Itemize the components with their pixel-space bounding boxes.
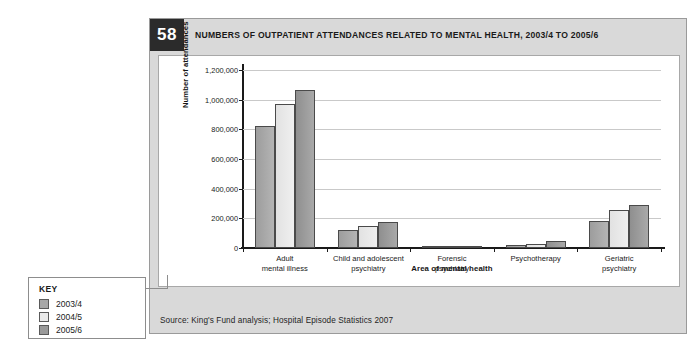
key-legend-box: KEY 2003/4 2004/5 2005/6 [28,277,146,339]
y-tick-label: 600,000 [211,155,238,164]
y-tick-label: 1,200,000 [205,66,238,75]
x-tick-mark [410,248,411,252]
figure-title: NUMBERS OF OUTPATIENT ATTENDANCES RELATE… [184,19,686,51]
y-tick-label: 0 [234,244,238,253]
y-tick-label: 1,000,000 [205,95,238,104]
source-note: Source: King's Fund analysis; Hospital E… [160,316,393,325]
key-connector-line-vertical [167,275,168,289]
plot-card: Number of attendances 0200,000400,000600… [158,55,680,287]
x-tick-mark [327,248,328,252]
y-tick-label: 400,000 [211,184,238,193]
bar [338,230,358,248]
bar-chart: Number of attendances 0200,000400,000600… [159,56,679,286]
bar [358,226,378,248]
bar-group: Psychotherapy [494,70,578,248]
x-tick-mark [577,248,578,252]
bar-group: Geriatricpsychiatry [577,70,661,248]
key-item: 2005/6 [39,323,145,336]
plot-box: 0200,000400,000600,000800,0001,000,0001,… [243,70,661,248]
bar [589,221,609,248]
key-item: 2003/4 [39,297,145,310]
key-swatch-2003-4 [39,299,49,309]
x-tick-mark [494,248,495,252]
key-heading: KEY [39,284,145,294]
figure-header: 58 NUMBERS OF OUTPATIENT ATTENDANCES REL… [150,19,686,51]
key-label-2005-6: 2005/6 [56,325,82,335]
bar [546,241,566,248]
figure-number-badge: 58 [150,19,184,51]
bar [275,104,295,248]
bar-group: Forensicpsychiatry [410,70,494,248]
bar [629,205,649,248]
bar [422,246,442,248]
key-connector-line [146,288,168,289]
x-tick-mark [661,248,662,252]
key-item: 2004/5 [39,310,145,323]
bar [506,245,526,248]
y-axis-title: Number of attendances [181,0,190,108]
bar [609,210,629,248]
figure-panel: 58 NUMBERS OF OUTPATIENT ATTENDANCES REL… [149,18,687,334]
bar [462,246,482,248]
key-swatch-2004-5 [39,312,49,322]
x-axis-title: Area of mental health [243,264,661,273]
bar-group: Adultmental illness [243,70,327,248]
key-label-2004-5: 2004/5 [56,312,82,322]
bar [378,222,398,248]
y-tick-label: 200,000 [211,214,238,223]
y-tick-label: 800,000 [211,125,238,134]
x-tick-mark [243,248,244,252]
bar [255,126,275,248]
bar [526,244,546,248]
bar [442,246,462,248]
bar [295,90,315,248]
key-swatch-2005-6 [39,325,49,335]
bar-group: Child and adolescentpsychiatry [327,70,411,248]
key-label-2003-4: 2003/4 [56,299,82,309]
